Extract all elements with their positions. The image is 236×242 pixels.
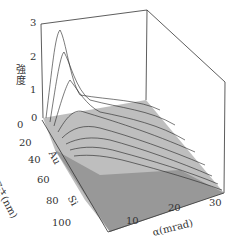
y-tick: 60 xyxy=(37,175,50,185)
z-axis-label: 強度 xyxy=(16,64,28,86)
y-tick: 20 xyxy=(19,138,32,148)
z-tick: 3 xyxy=(30,18,36,28)
z-tick: 2 xyxy=(30,52,36,62)
x-tick: 10 xyxy=(126,216,139,226)
y-tick: 80 xyxy=(46,196,59,206)
z-tick: 1 xyxy=(30,85,36,95)
x-tick: 30 xyxy=(209,198,222,208)
y-tick: 40 xyxy=(28,155,41,165)
y-tick: 0 xyxy=(17,120,23,130)
y-tick: 100 xyxy=(52,218,71,228)
x-tick: 20 xyxy=(168,203,181,213)
z-tick: 0 xyxy=(31,113,37,123)
